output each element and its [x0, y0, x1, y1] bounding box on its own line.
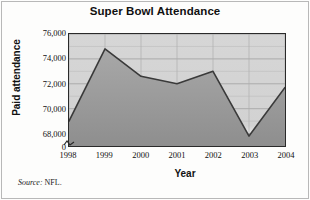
y-tick-label: 70,000 [43, 104, 66, 114]
x-tick-label: 2003 [241, 150, 258, 160]
x-tick-label: 2004 [278, 150, 295, 160]
x-tick-label: 1999 [96, 150, 113, 160]
x-tick-label: 2001 [169, 150, 186, 160]
source-note: Source: NFL. [18, 178, 62, 187]
x-tick-label: 1998 [60, 150, 77, 160]
y-tick-label: 76,000 [43, 28, 66, 38]
chart-figure: Super Bowl Attendance Paid attendance Ye… [0, 0, 310, 200]
axis-break-icon [62, 136, 76, 150]
area-chart-svg [69, 34, 285, 146]
x-axis-label: Year [70, 168, 300, 179]
x-axis-tick-labels: 1998199920002001200220032004 [56, 150, 288, 166]
x-tick-label: 2000 [132, 150, 149, 160]
y-tick-label: 74,000 [43, 53, 66, 63]
y-tick-label: 72,000 [43, 79, 66, 89]
y-axis-tick-labels: 76,00074,00072,00070,00068,0000 [22, 30, 66, 155]
chart-title: Super Bowl Attendance [0, 5, 310, 17]
source-value: NFL. [45, 178, 62, 187]
source-label: Source: [18, 178, 43, 187]
plot-area [68, 33, 286, 147]
y-axis-label: Paid attendance [11, 18, 22, 138]
x-tick-label: 2002 [205, 150, 222, 160]
